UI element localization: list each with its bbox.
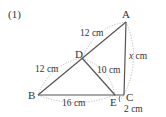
length-DE-label: 10 cm xyxy=(97,65,121,75)
length-AD-label: 12 cm xyxy=(80,28,104,38)
unit-cm: cm xyxy=(133,51,148,61)
edge-AC xyxy=(124,22,126,95)
point-E-label: E xyxy=(110,96,117,108)
point-D-label: D xyxy=(75,48,83,60)
length-AC-label: x cm xyxy=(128,51,148,61)
problem-number: (1) xyxy=(8,8,21,21)
length-DB-label: 12 cm xyxy=(35,64,59,74)
point-B-label: B xyxy=(28,89,35,101)
triangle-diagram: (1) A B C D E 12 cm 12 cm 10 cm 16 cm 2 … xyxy=(0,0,166,117)
point-A-label: A xyxy=(122,8,130,20)
length-BE-label: 16 cm xyxy=(62,98,86,108)
point-C-label: C xyxy=(126,91,133,103)
edge-DE xyxy=(82,58,115,95)
length-EC-label: 2 cm xyxy=(124,104,143,114)
